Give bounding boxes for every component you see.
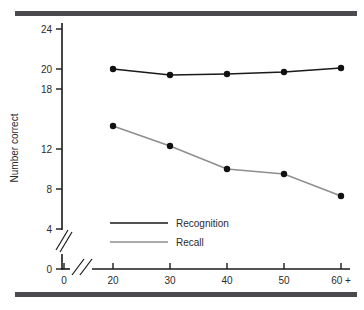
series-recognition [110,65,344,78]
bottom-rule-divider [15,292,357,297]
y-tick-label-8: 8 [46,184,52,195]
x-tick-label-0: 0 [61,275,67,286]
x-tick-label-20: 20 [107,275,119,286]
x-tick-label-50: 50 [278,275,290,286]
data-point-recognition-30 [167,72,173,78]
data-point-recall-50 [281,171,287,177]
top-rule-divider [15,11,357,16]
x-axis-break-icon [72,259,92,275]
data-point-recognition-20 [110,66,116,72]
x-axis-ticks [64,263,341,269]
legend-label-recognition: Recognition [176,218,229,229]
legend-label-recall: Recall [176,237,204,248]
y-tick-label-18: 18 [41,84,53,95]
chart-legend: Recognition Recall [110,218,229,248]
data-point-recall-30 [167,143,173,149]
data-point-recognition-60 [338,65,344,71]
y-tick-label-12: 12 [41,144,53,155]
y-tick-label-24: 24 [41,24,53,35]
y-tick-label-4: 4 [46,224,52,235]
data-point-recognition-40 [224,71,230,77]
data-point-recall-60 [338,193,344,199]
series-recall [110,123,344,199]
data-point-recall-20 [110,123,116,129]
y-axis-break-icon [56,230,72,252]
x-tick-label-40: 40 [221,275,233,286]
series-line-recall [113,126,341,196]
y-axis-title: Number correct [9,113,20,182]
data-point-recall-40 [224,166,230,172]
figure-container: 24 20 18 12 8 4 0 Number correct 0 20 30… [0,0,364,310]
line-chart-svg: 24 20 18 12 8 4 0 Number correct 0 20 30… [0,18,364,290]
y-axis-ticks [56,29,62,269]
x-tick-label-30: 30 [164,275,176,286]
y-tick-label-20: 20 [41,64,53,75]
y-tick-label-0: 0 [46,264,52,275]
x-tick-label-60plus: 60 + [331,275,351,286]
chart-plot-area: 24 20 18 12 8 4 0 Number correct 0 20 30… [0,18,364,290]
data-point-recognition-50 [281,69,287,75]
